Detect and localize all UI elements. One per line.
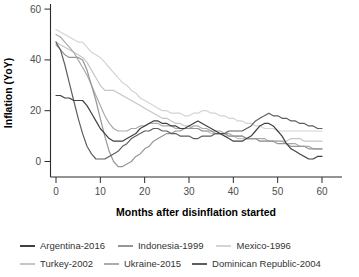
- chart-legend: Argentina-2016 Indonesia-1999 Mexico-199…: [0, 237, 359, 272]
- legend-label: Argentina-2016: [40, 240, 105, 251]
- legend-row-1: Argentina-2016 Indonesia-1999 Mexico-199…: [0, 237, 359, 254]
- y-axis-ticks: 0204060: [30, 4, 51, 167]
- x-tick-label: 20: [139, 186, 151, 197]
- x-tick-label: 30: [183, 186, 195, 197]
- chart-canvas: Inflation (YoY) Months after disinflatio…: [0, 0, 359, 236]
- y-tick-label: 60: [30, 4, 42, 15]
- legend-item: Ukraine-2015: [104, 258, 181, 269]
- legend-row-2: Turkey-2002 Ukraine-2015 Dominican Repub…: [0, 255, 359, 272]
- legend-label: Dominican Republic-2004: [212, 258, 321, 269]
- legend-label: Mexico-1996: [236, 240, 290, 251]
- y-tick-label: 20: [30, 105, 42, 116]
- legend-item: Indonesia-1999: [118, 240, 204, 251]
- x-tick-label: 0: [53, 186, 59, 197]
- legend-line-swatch: [20, 245, 35, 247]
- series-line-ukraine-2015: [56, 35, 322, 149]
- legend-line-swatch: [20, 263, 35, 265]
- x-axis-ticks: 0102030405060: [53, 177, 328, 197]
- legend-item: Turkey-2002: [20, 258, 93, 269]
- legend-item: Mexico-1996: [216, 240, 290, 251]
- legend-line-swatch: [104, 263, 119, 265]
- y-tick-label: 40: [30, 54, 42, 65]
- legend-line-swatch: [216, 245, 231, 247]
- x-tick-label: 10: [95, 186, 107, 197]
- legend-label: Ukraine-2015: [124, 258, 181, 269]
- x-tick-label: 60: [316, 186, 328, 197]
- legend-label: Indonesia-1999: [138, 240, 204, 251]
- y-tick-label: 0: [35, 156, 41, 167]
- y-axis-title: Inflation (YoY): [2, 58, 14, 128]
- x-axis-title: Months after disinflation started: [116, 206, 276, 218]
- inflation-disinflation-chart: Inflation (YoY) Months after disinflatio…: [0, 0, 359, 277]
- series-line-argentina-2016: [56, 96, 322, 160]
- series-line-indonesia-1999: [56, 45, 322, 167]
- series-line-mexico-1996: [56, 29, 322, 131]
- x-tick-label: 50: [272, 186, 284, 197]
- legend-label: Turkey-2002: [40, 258, 93, 269]
- x-tick-label: 40: [228, 186, 240, 197]
- legend-line-swatch: [118, 245, 133, 247]
- plot-series-lines: [56, 29, 322, 166]
- legend-item: Dominican Republic-2004: [192, 258, 321, 269]
- legend-item: Argentina-2016: [20, 240, 105, 251]
- legend-line-swatch: [192, 263, 207, 265]
